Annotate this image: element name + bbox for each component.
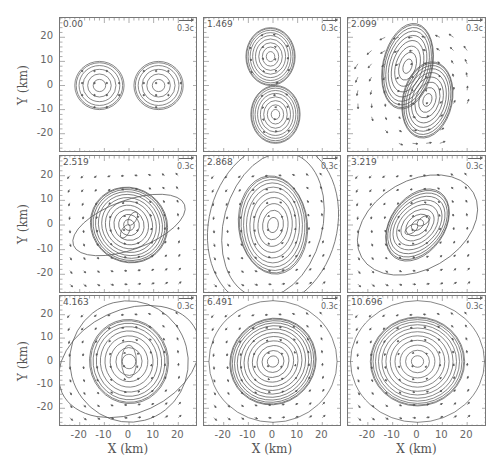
density-contours (60, 296, 197, 426)
x-tick-label: 20 (453, 430, 479, 440)
time-label: 2.099 (351, 19, 377, 29)
x-tick-label: -20 (354, 430, 380, 440)
x-tick-label: -20 (66, 430, 92, 440)
velocity-vectors (356, 173, 470, 287)
plot-panel: 3.2190.3c (347, 155, 486, 293)
y-tick-label: -20 (25, 268, 53, 278)
figure: 0.000.3c1.4690.3c2.0990.3c2.5190.3c2.868… (0, 0, 499, 470)
density-contours (374, 19, 459, 143)
velocity-scale-arrow-icon (179, 20, 193, 21)
velocity-scale-arrow-icon (179, 158, 193, 159)
velocity-scale-arrow-icon (468, 20, 482, 21)
velocity-scale-label: 0.3c (321, 302, 338, 311)
x-axis-label: X (km) (232, 442, 312, 456)
velocity-scale-label: 0.3c (177, 162, 194, 171)
x-tick-label: -10 (234, 430, 260, 440)
contour-plot (60, 18, 197, 152)
x-tick-label: 0 (404, 430, 430, 440)
y-tick-label: 20 (25, 170, 53, 180)
contour-plot (348, 296, 486, 426)
velocity-vectors (250, 34, 290, 133)
y-tick-label: -20 (25, 128, 53, 138)
tick-marks (204, 156, 341, 293)
x-tick-label: 0 (259, 430, 285, 440)
velocity-vectors (355, 34, 469, 145)
x-tick-label: 0 (115, 430, 141, 440)
x-tick-label: 20 (308, 430, 334, 440)
time-label: 10.696 (351, 297, 383, 307)
plot-panel: 2.8680.3c (203, 155, 341, 293)
time-label: 3.219 (351, 157, 377, 167)
x-tick-label: 10 (428, 430, 454, 440)
velocity-scale-arrow-icon (323, 158, 337, 159)
x-tick-label: 10 (284, 430, 310, 440)
time-label: 0.00 (63, 19, 83, 29)
plot-panel: 6.4910.3c (203, 295, 341, 426)
velocity-scale-arrow-icon (323, 298, 337, 299)
time-label: 4.163 (63, 297, 89, 307)
velocity-scale-arrow-icon (179, 298, 193, 299)
velocity-scale-label: 0.3c (321, 24, 338, 33)
y-axis-label: Y (km) (16, 331, 30, 391)
velocity-scale-label: 0.3c (466, 302, 483, 311)
density-contours (350, 301, 484, 423)
velocity-scale-arrow-icon (468, 298, 482, 299)
time-label: 1.469 (207, 19, 233, 29)
x-axis-label: X (km) (377, 442, 457, 456)
velocity-scale-label: 0.3c (466, 162, 483, 171)
y-tick-label: -20 (25, 402, 53, 412)
tick-marks (348, 296, 486, 426)
contour-plot (204, 156, 341, 293)
contour-plot (348, 156, 486, 293)
tick-marks (60, 296, 197, 426)
density-contours (209, 300, 337, 422)
x-tick-label: -10 (379, 430, 405, 440)
velocity-vectors (67, 173, 181, 287)
plot-panel: 2.0990.3c (347, 17, 486, 152)
contour-plot (204, 18, 341, 152)
contour-plot (60, 296, 197, 426)
contour-plot (348, 18, 486, 152)
x-tick-label: -20 (210, 430, 236, 440)
velocity-scale-label: 0.3c (177, 24, 194, 33)
x-tick-label: 10 (140, 430, 166, 440)
plot-panel: 2.5190.3c (59, 155, 197, 293)
y-axis-label: Y (km) (16, 194, 30, 254)
tick-marks (348, 18, 486, 152)
plot-panel: 0.000.3c (59, 17, 197, 152)
x-tick-label: -10 (90, 430, 116, 440)
contour-plot (60, 156, 197, 293)
density-contours (204, 156, 341, 293)
time-label: 6.491 (207, 297, 233, 307)
density-contours (65, 172, 193, 278)
tick-marks (204, 296, 341, 426)
time-label: 2.519 (63, 157, 89, 167)
velocity-scale-label: 0.3c (177, 302, 194, 311)
density-contours (348, 156, 486, 293)
plot-panel: 10.6960.3c (347, 295, 486, 426)
contour-plot (204, 296, 341, 426)
y-tick-label: 20 (25, 31, 53, 41)
velocity-scale-arrow-icon (323, 20, 337, 21)
plot-panel: 4.1630.3c (59, 295, 197, 426)
velocity-scale-label: 0.3c (466, 24, 483, 33)
velocity-vectors (67, 312, 181, 420)
velocity-scale-arrow-icon (468, 158, 482, 159)
density-contours (75, 61, 183, 109)
density-contours (246, 28, 300, 144)
y-axis-label: Y (km) (16, 55, 30, 115)
velocity-vectors (81, 70, 181, 108)
x-axis-label: X (km) (88, 442, 168, 456)
y-tick-label: 20 (25, 309, 53, 319)
plot-panel: 1.4690.3c (203, 17, 341, 152)
x-tick-label: 20 (164, 430, 190, 440)
time-label: 2.868 (207, 157, 233, 167)
tick-marks (60, 18, 197, 152)
velocity-scale-label: 0.3c (321, 162, 338, 171)
